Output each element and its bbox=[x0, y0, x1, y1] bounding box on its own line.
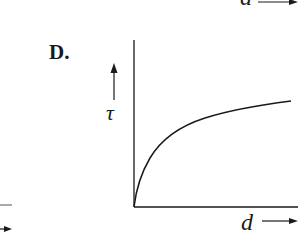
tau-up-arrow-icon bbox=[111, 63, 118, 100]
bottom-left-partial-arrow bbox=[0, 226, 12, 232]
plot-canvas bbox=[0, 0, 298, 239]
y-axis-label: τ bbox=[106, 100, 114, 126]
panel-label: D. bbox=[49, 40, 69, 65]
top-right-partial-arrow bbox=[258, 0, 298, 5]
tau-vs-d-curve bbox=[134, 101, 291, 207]
x-axis-label: d bbox=[241, 209, 253, 236]
d-right-arrow-icon bbox=[262, 218, 298, 224]
top-partial-label: d bbox=[240, 0, 252, 11]
